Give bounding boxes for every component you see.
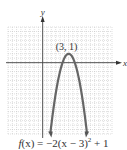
x-axis-label: x <box>122 58 127 68</box>
parabola-chart: y x (3, 1) <box>0 0 127 150</box>
axes <box>6 16 122 138</box>
caption-body: (x) = −2(x − 3) <box>22 137 88 149</box>
vertex-label: (3, 1) <box>56 41 78 53</box>
function-caption: f(x) = −2(x − 3)2 + 1 <box>0 136 127 149</box>
caption-tail: + 1 <box>91 137 108 149</box>
y-axis-label: y <box>40 7 45 17</box>
